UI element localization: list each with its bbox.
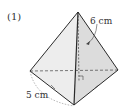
problem-number: (1)	[7, 11, 21, 22]
height-label: 6 cm	[90, 16, 113, 26]
base-edge-label: 5 cm	[26, 90, 49, 100]
pyramid-diagram: (1) 6 cm 5 cm	[0, 0, 129, 110]
